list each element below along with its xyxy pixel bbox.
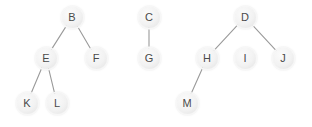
tree-edge <box>48 67 55 95</box>
tree-node-label: G <box>145 53 154 64</box>
tree-node-i[interactable]: I <box>235 48 256 69</box>
tree-node-m[interactable]: M <box>177 93 198 114</box>
tree-node-label: D <box>241 12 249 23</box>
tree-node-g[interactable]: G <box>139 48 160 69</box>
tree-node-l[interactable]: L <box>47 93 68 114</box>
tree-node-label: I <box>243 53 246 64</box>
tree-node-label: F <box>93 53 100 64</box>
tree-node-label: J <box>280 53 286 64</box>
tree-edge <box>251 24 277 52</box>
tree-edge <box>77 25 92 50</box>
tree-node-e[interactable]: E <box>36 48 57 69</box>
tree-node-label: B <box>68 12 75 23</box>
tree-node-label: L <box>54 98 60 109</box>
tree-node-label: C <box>145 12 153 23</box>
tree-node-f[interactable]: F <box>86 48 107 69</box>
tree-node-label: K <box>23 98 30 109</box>
tree-edge <box>31 66 43 94</box>
tree-node-label: M <box>182 98 191 109</box>
tree-diagram-canvas: BEFKLCGDHIJM <box>0 0 312 127</box>
tree-edge <box>213 24 239 52</box>
tree-node-c[interactable]: C <box>139 7 160 28</box>
tree-node-label: H <box>203 53 211 64</box>
tree-edge <box>191 66 204 95</box>
tree-node-j[interactable]: J <box>273 48 294 69</box>
tree-node-b[interactable]: B <box>62 7 83 28</box>
tree-node-d[interactable]: D <box>235 7 256 28</box>
tree-node-k[interactable]: K <box>17 93 38 114</box>
tree-node-h[interactable]: H <box>197 48 218 69</box>
tree-node-label: E <box>42 53 49 64</box>
tree-edge <box>51 25 67 51</box>
